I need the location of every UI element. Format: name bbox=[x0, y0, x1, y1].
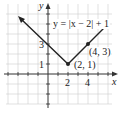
x-axis-label: x bbox=[112, 77, 116, 87]
point-label-2-1: (2, 1) bbox=[74, 60, 96, 70]
x-tick-2: 2 bbox=[65, 78, 70, 88]
equation-label: y = |x − 2| + 1 bbox=[52, 19, 110, 29]
x-tick-4: 4 bbox=[85, 78, 90, 88]
point-label-4-3: (4, 3) bbox=[89, 47, 111, 57]
y-tick-1: 1 bbox=[39, 60, 44, 70]
y-axis-label: y bbox=[39, 1, 43, 11]
point-2-1 bbox=[66, 62, 70, 66]
y-tick-3: 3 bbox=[39, 40, 44, 50]
y-axis-arrow-icon bbox=[46, 3, 51, 9]
